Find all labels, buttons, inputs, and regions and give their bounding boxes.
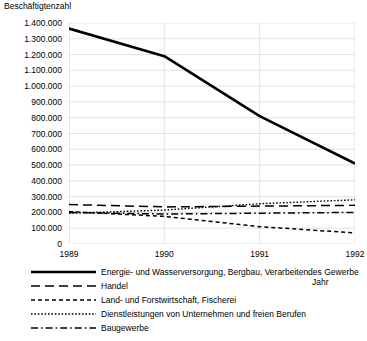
legend-item[interactable]: Energie- und Wasserversorgung, Bergbau, … (31, 265, 367, 279)
y-tick-label: 1.300.000 (6, 34, 62, 44)
y-tick-label: 700.000 (6, 129, 62, 139)
legend-line-swatch (31, 280, 96, 292)
y-tick-label: 600.000 (6, 144, 62, 154)
y-tick-label: 1.400.000 (6, 18, 62, 28)
data-series-line (69, 29, 355, 164)
legend-item[interactable]: Baugewerbe (31, 321, 367, 335)
y-tick-label: 0 (6, 239, 62, 249)
plot-svg (69, 23, 355, 244)
legend-item[interactable]: Handel (31, 279, 367, 293)
y-tick-label: 200.000 (6, 207, 62, 217)
legend-label: Energie- und Wasserversorgung, Bergbau, … (101, 267, 359, 277)
x-tick-label: 1992 (335, 249, 367, 259)
legend-label: Baugewerbe (101, 323, 149, 333)
x-tick-label: 1989 (49, 249, 89, 259)
x-tick-label: 1991 (240, 249, 280, 259)
y-tick-label: 1.000.000 (6, 81, 62, 91)
legend-item[interactable]: Land- und Forstwirtschaft, Fischerei (31, 293, 367, 307)
y-tick-label: 500.000 (6, 160, 62, 170)
plot-area (69, 23, 355, 244)
legend-label: Dienstleistungen von Unternehmen und fre… (101, 309, 306, 319)
y-tick-label: 300.000 (6, 192, 62, 202)
y-tick-label: 400.000 (6, 176, 62, 186)
chart-legend: Energie- und Wasserversorgung, Bergbau, … (31, 265, 367, 335)
y-axis-tick-labels: 0100.000200.000300.000400.000500.000600.… (4, 0, 62, 250)
legend-item[interactable]: Dienstleistungen von Unternehmen und fre… (31, 307, 367, 321)
data-series-line (69, 200, 355, 213)
legend-line-swatch (31, 308, 96, 320)
y-tick-label: 100.000 (6, 223, 62, 233)
legend-line-swatch (31, 294, 96, 306)
legend-line-swatch (31, 266, 96, 278)
legend-label: Handel (101, 281, 128, 291)
employment-line-chart: Beschäftigtenzahl 0100.000200.000300.000… (0, 0, 367, 341)
y-tick-label: 1.200.000 (6, 50, 62, 60)
y-tick-label: 1.100.000 (6, 65, 62, 75)
legend-label: Land- und Forstwirtschaft, Fischerei (101, 295, 236, 305)
data-series-line (69, 212, 355, 233)
y-tick-label: 800.000 (6, 113, 62, 123)
x-tick-label: 1990 (144, 249, 184, 259)
legend-line-swatch (31, 322, 96, 334)
y-tick-label: 900.000 (6, 97, 62, 107)
